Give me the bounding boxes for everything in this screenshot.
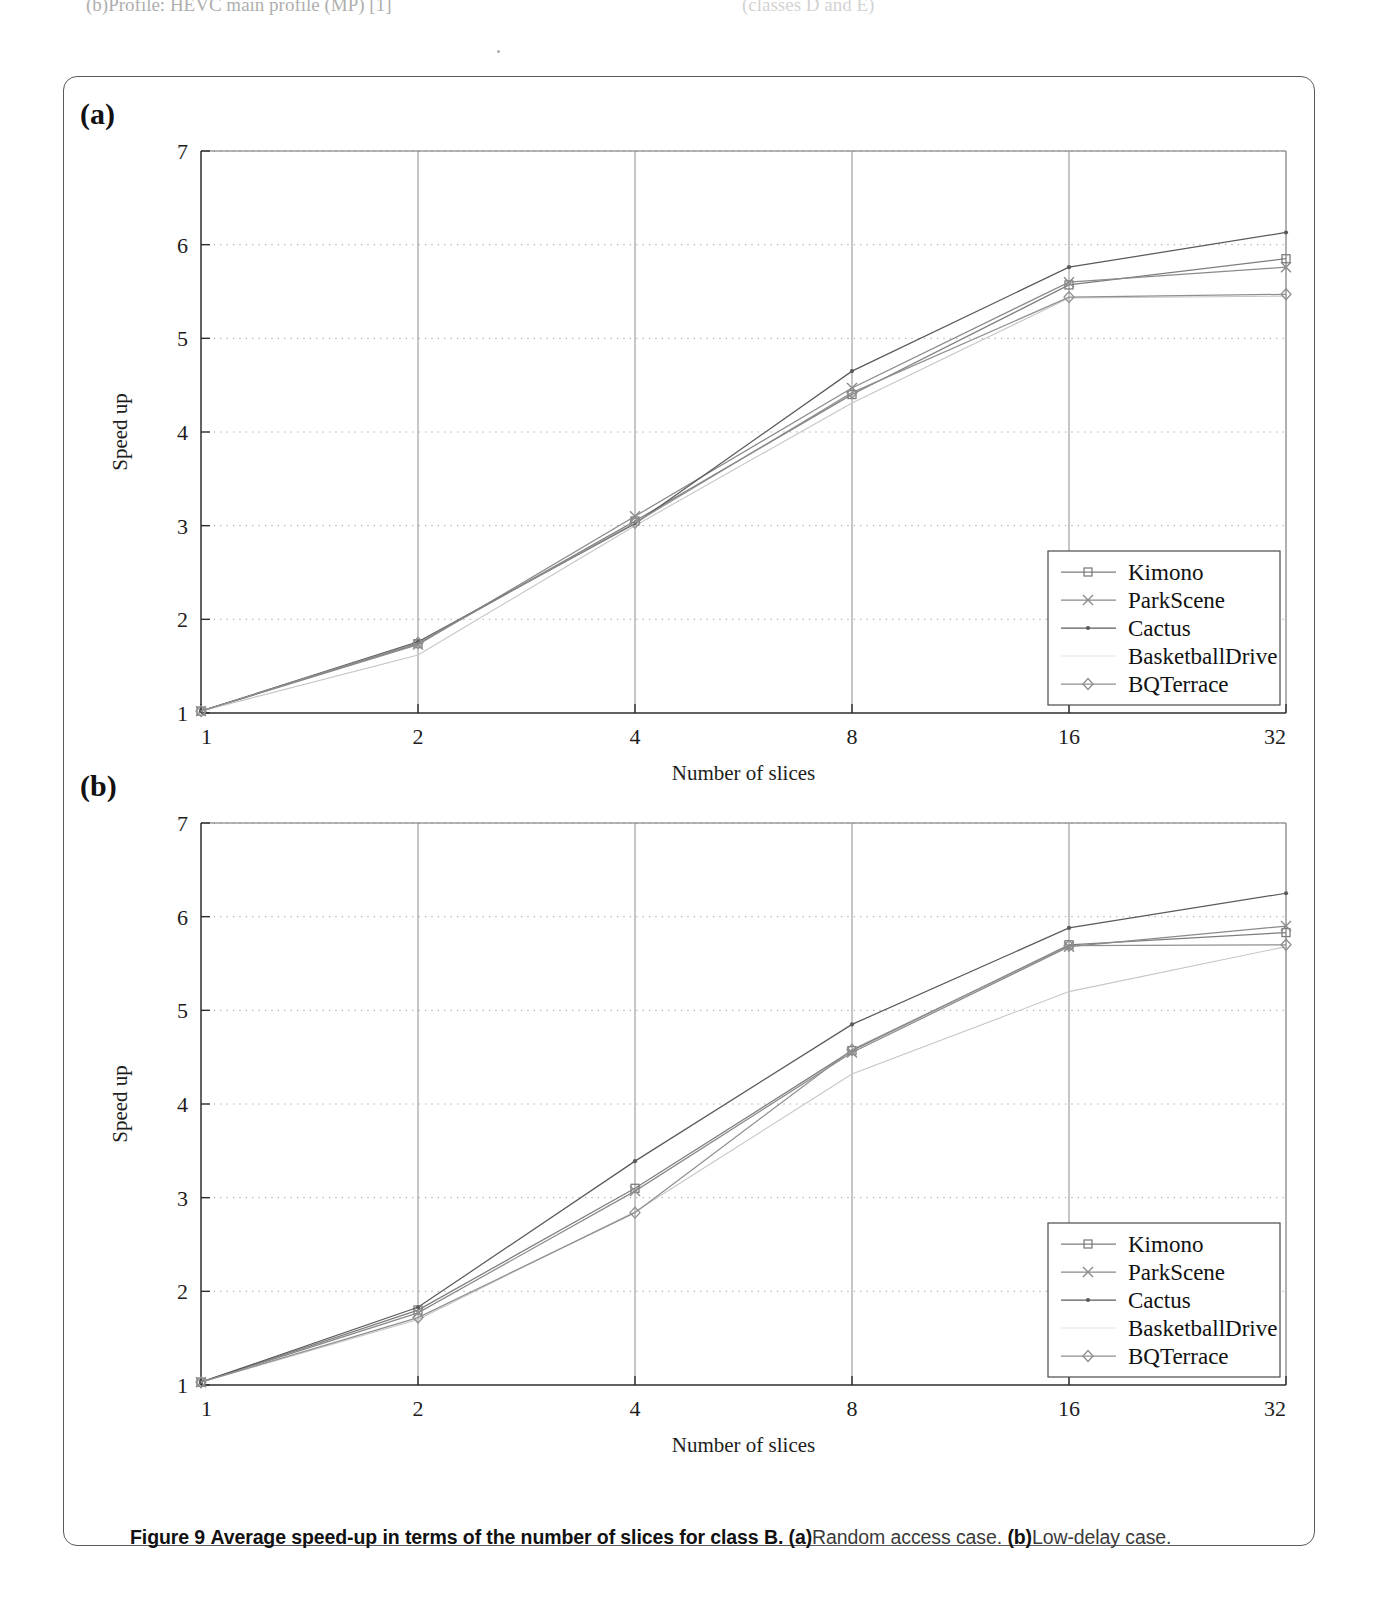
x-axis-title: Number of slices [672, 761, 815, 785]
tick-label-x: 8 [847, 1396, 858, 1421]
tick-label-y: 4 [177, 420, 188, 445]
legend-label: BasketballDrive [1128, 644, 1277, 669]
tick-label-x: 8 [847, 724, 858, 749]
legend-label: BQTerrace [1128, 672, 1229, 697]
legend-label: Kimono [1128, 1232, 1203, 1257]
line-chart: 123456712481632Number of slicesSpeed upK… [64, 113, 1316, 785]
tick-label-y: 7 [177, 139, 188, 164]
marker-dot [850, 1022, 854, 1026]
tick-label-y: 5 [177, 326, 188, 351]
marker-dot [1086, 626, 1090, 630]
legend-label: Cactus [1128, 1288, 1191, 1313]
caption-figure-number: Figure 9 [130, 1526, 205, 1548]
figure-page: (b)Profile: HEVC main profile (MP) [1] (… [0, 0, 1378, 1623]
tick-label-x: 4 [630, 1396, 641, 1421]
marker-dot [633, 1159, 637, 1163]
legend-label: BasketballDrive [1128, 1316, 1277, 1341]
caption-a-tag: (a) [789, 1526, 813, 1548]
tick-label-x: 32 [1264, 724, 1286, 749]
marker-dot [1086, 1298, 1090, 1302]
tick-label-x: 1 [201, 1396, 212, 1421]
y-axis-title: Speed up [108, 393, 132, 471]
legend-label: Cactus [1128, 616, 1191, 641]
legend-label: ParkScene [1128, 1260, 1225, 1285]
figure-frame: (a) 123456712481632Number of slicesSpeed… [63, 76, 1315, 1546]
tick-label-y: 6 [177, 905, 188, 930]
tick-label-x: 16 [1058, 1396, 1080, 1421]
tick-label-y: 5 [177, 998, 188, 1023]
figure-caption: Figure 9 Average speed-up in terms of th… [130, 1524, 1310, 1550]
page-top-text-right: (classes D and E) [742, 0, 874, 16]
marker-dot [1284, 230, 1288, 234]
caption-b-text: Low-delay case. [1032, 1526, 1171, 1548]
chart-panel-a: 123456712481632Number of slicesSpeed upK… [64, 113, 1316, 785]
chart-legend: KimonoParkSceneCactusBasketballDriveBQTe… [1048, 551, 1280, 705]
marker-dot [1067, 926, 1071, 930]
marker-dot [1067, 265, 1071, 269]
tick-label-x: 2 [413, 1396, 424, 1421]
tick-label-y: 4 [177, 1092, 188, 1117]
x-axis-title: Number of slices [672, 1433, 815, 1457]
tick-label-y: 3 [177, 514, 188, 539]
tick-label-y: 2 [177, 607, 188, 632]
tick-label-x: 32 [1264, 1396, 1286, 1421]
chart-panel-b: 123456712481632Number of slicesSpeed upK… [64, 785, 1316, 1457]
tick-label-x: 1 [201, 724, 212, 749]
caption-main-text: Average speed-up in terms of the number … [210, 1526, 783, 1548]
marker-dot [850, 369, 854, 373]
legend-label: BQTerrace [1128, 1344, 1229, 1369]
marker-dot [416, 1305, 420, 1309]
tick-label-x: 2 [413, 724, 424, 749]
y-axis-title: Speed up [108, 1065, 132, 1143]
tick-label-y: 1 [177, 701, 188, 726]
tick-label-x: 16 [1058, 724, 1080, 749]
caption-b-tag: (b) [1007, 1526, 1032, 1548]
tick-label-y: 1 [177, 1373, 188, 1398]
page-top-text-left: (b)Profile: HEVC main profile (MP) [1] [86, 0, 392, 16]
legend-label: Kimono [1128, 560, 1203, 585]
page-artifact-dot [497, 50, 500, 53]
line-chart: 123456712481632Number of slicesSpeed upK… [64, 785, 1316, 1457]
tick-label-y: 6 [177, 233, 188, 258]
marker-dot [1284, 891, 1288, 895]
chart-legend: KimonoParkSceneCactusBasketballDriveBQTe… [1048, 1223, 1280, 1377]
tick-label-y: 3 [177, 1186, 188, 1211]
legend-label: ParkScene [1128, 588, 1225, 613]
tick-label-y: 2 [177, 1279, 188, 1304]
tick-label-y: 7 [177, 811, 188, 836]
caption-a-text: Random access case. [812, 1526, 1002, 1548]
tick-label-x: 4 [630, 724, 641, 749]
